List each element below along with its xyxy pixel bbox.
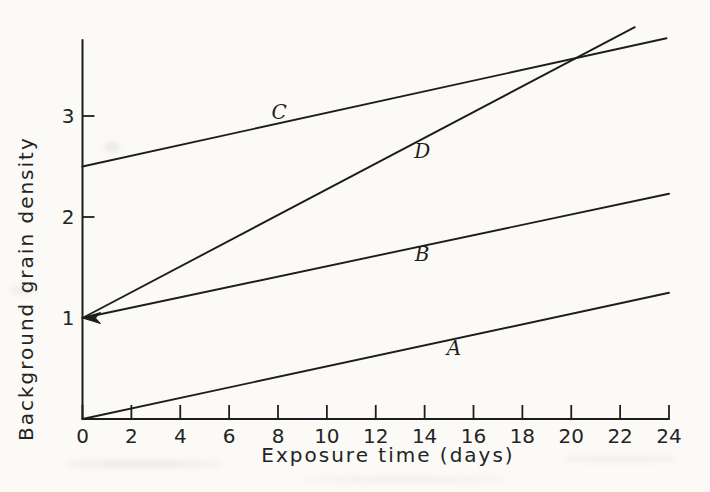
series-line-D	[83, 27, 635, 318]
series-label-C: C	[272, 100, 287, 124]
x-tick-label-24: 24	[656, 424, 681, 448]
series-label-D: D	[413, 139, 430, 163]
y-tick-label-2: 2	[62, 205, 75, 229]
x-tick-label-20: 20	[559, 424, 584, 448]
x-tick-label-4: 4	[174, 424, 187, 448]
x-tick-label-0: 0	[76, 424, 89, 448]
y-axis-title: Background grain density	[14, 145, 38, 441]
x-tick-label-22: 22	[607, 424, 632, 448]
figure: 024681012141618202224123ABCD Exposure ti…	[0, 0, 710, 492]
series-label-B: B	[414, 242, 430, 266]
series-line-B	[83, 194, 670, 318]
x-tick-label-2: 2	[125, 424, 138, 448]
series-line-A	[83, 293, 670, 419]
y-tick-label-3: 3	[62, 104, 75, 128]
y-tick-label-1: 1	[62, 306, 75, 330]
x-tick-label-6: 6	[223, 424, 236, 448]
chart-canvas: 024681012141618202224123ABCD	[0, 0, 710, 492]
x-axis-title: Exposure time (days)	[238, 443, 538, 467]
series-label-A: A	[445, 336, 461, 360]
